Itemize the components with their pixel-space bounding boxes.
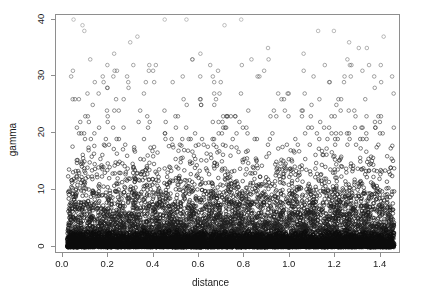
y-tick-mark <box>51 132 55 133</box>
y-tick-label: 0 <box>36 238 46 254</box>
y-tick-label: 30 <box>36 67 46 83</box>
x-tick-mark <box>153 253 154 257</box>
y-tick-label: 10 <box>36 181 46 197</box>
x-axis-title: distance <box>0 277 421 288</box>
x-tick-label: 0.0 <box>55 259 68 269</box>
x-tick-label: 0.4 <box>146 259 159 269</box>
y-tick-mark <box>51 246 55 247</box>
x-tick-mark <box>334 253 335 257</box>
x-tick-label: 1.2 <box>328 259 341 269</box>
x-tick-label: 0.2 <box>101 259 114 269</box>
x-tick-mark <box>198 253 199 257</box>
y-tick-mark <box>51 75 55 76</box>
x-tick-mark <box>62 253 63 257</box>
x-tick-mark <box>380 253 381 257</box>
y-tick-label: 20 <box>36 124 46 140</box>
plot-frame <box>55 14 400 253</box>
y-tick-mark <box>51 189 55 190</box>
y-axis-title: gamma <box>7 116 18 164</box>
y-tick-label: 40 <box>36 11 46 27</box>
x-tick-mark <box>243 253 244 257</box>
x-tick-label: 0.8 <box>237 259 250 269</box>
x-tick-label: 1.0 <box>282 259 295 269</box>
scatterplot-screenshot: 0.00.20.40.60.81.01.21.4 010203040 dista… <box>0 0 421 298</box>
y-tick-mark <box>51 19 55 20</box>
x-tick-label: 0.6 <box>191 259 204 269</box>
x-tick-mark <box>289 253 290 257</box>
scatter-points-layer <box>56 15 401 254</box>
x-tick-label: 1.4 <box>373 259 386 269</box>
x-tick-mark <box>107 253 108 257</box>
